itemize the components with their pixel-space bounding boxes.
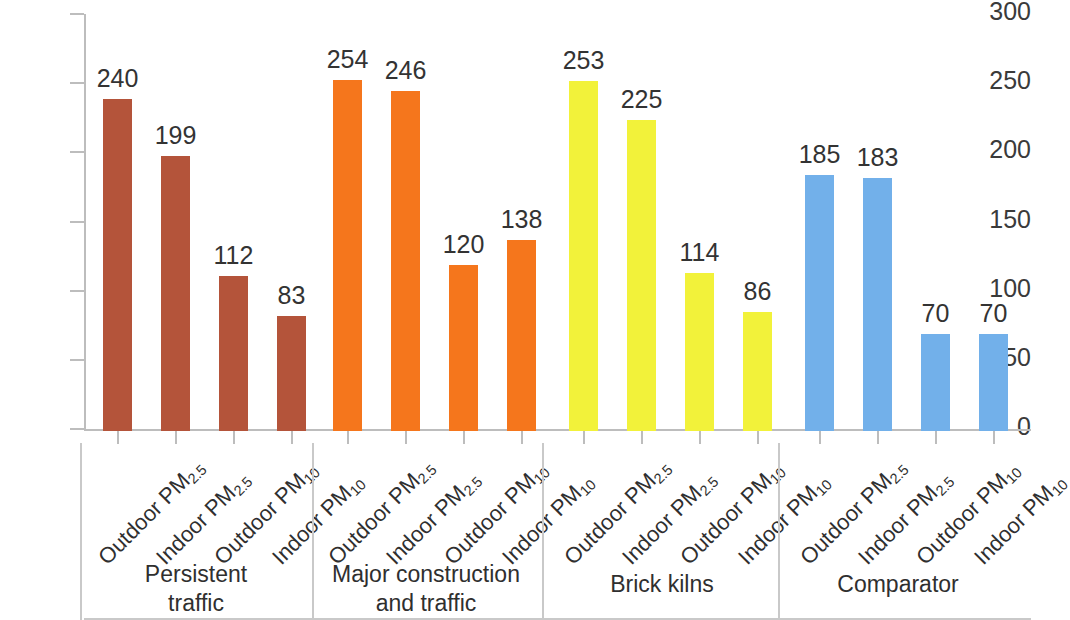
- x-axis-tick: [757, 431, 759, 444]
- y-axis-tick: [70, 428, 84, 430]
- bar: [569, 81, 598, 431]
- x-axis-tick: [935, 431, 937, 444]
- group-separator: [542, 443, 544, 620]
- group-label: Persistenttraffic: [80, 560, 312, 618]
- x-axis-tick: [347, 431, 349, 444]
- bar-value-label: 253: [544, 46, 624, 75]
- group-label-line: traffic: [80, 589, 312, 618]
- x-axis-tick: [405, 431, 407, 444]
- bar: [863, 178, 892, 431]
- bar-value-label: 112: [194, 241, 274, 270]
- group-label-line: Persistent: [80, 560, 312, 589]
- bar-value-label: 70: [954, 299, 1034, 328]
- bar: [449, 265, 478, 431]
- bar-value-label: 86: [718, 277, 798, 306]
- x-axis-tick: [993, 431, 995, 444]
- group-label-line: Major construction: [310, 560, 542, 589]
- bar-value-label: 138: [482, 205, 562, 234]
- group-label-line: Comparator: [782, 570, 1014, 599]
- y-axis-tick: [70, 290, 84, 292]
- bar: [979, 334, 1008, 431]
- x-axis-tick: [521, 431, 523, 444]
- group-label-line: and traffic: [310, 589, 542, 618]
- bar: [921, 334, 950, 431]
- bar: [627, 120, 656, 431]
- x-axis-tick: [819, 431, 821, 444]
- bar-value-label: 240: [78, 64, 158, 93]
- group-label: Comparator: [782, 570, 1014, 599]
- x-axis-tick: [291, 431, 293, 444]
- x-axis-tick: [583, 431, 585, 444]
- bar-value-label: 120: [424, 230, 504, 259]
- bar-value-label: 246: [366, 56, 446, 85]
- x-axis-tick: [699, 431, 701, 444]
- bar: [507, 240, 536, 431]
- bar-value-label: 183: [838, 143, 918, 172]
- bar: [161, 156, 190, 431]
- x-axis-tick: [175, 431, 177, 444]
- bar: [219, 276, 248, 431]
- x-axis-tick: [877, 431, 879, 444]
- bar-value-label: 114: [660, 238, 740, 267]
- group-separator: [778, 443, 780, 620]
- bar: [743, 312, 772, 431]
- group-label: Major constructionand traffic: [310, 560, 542, 618]
- x-axis-tick: [233, 431, 235, 444]
- bar-value-label: 225: [602, 85, 682, 114]
- bar-value-label: 199: [136, 121, 216, 150]
- y-axis-tick: [70, 221, 84, 223]
- group-label-line: Brick kilns: [546, 570, 778, 599]
- bar: [391, 91, 420, 431]
- bar-value-label: 83: [252, 281, 332, 310]
- x-axis-tick: [117, 431, 119, 444]
- y-axis-tick: [70, 151, 84, 153]
- bar: [805, 175, 834, 431]
- bar: [333, 80, 362, 431]
- bar: [277, 316, 306, 431]
- y-axis-tick: [70, 359, 84, 361]
- y-axis-tick: [70, 13, 84, 15]
- bar: [103, 99, 132, 431]
- bar: [685, 273, 714, 431]
- x-axis-tick: [463, 431, 465, 444]
- group-label: Brick kilns: [546, 570, 778, 599]
- x-axis-tick: [641, 431, 643, 444]
